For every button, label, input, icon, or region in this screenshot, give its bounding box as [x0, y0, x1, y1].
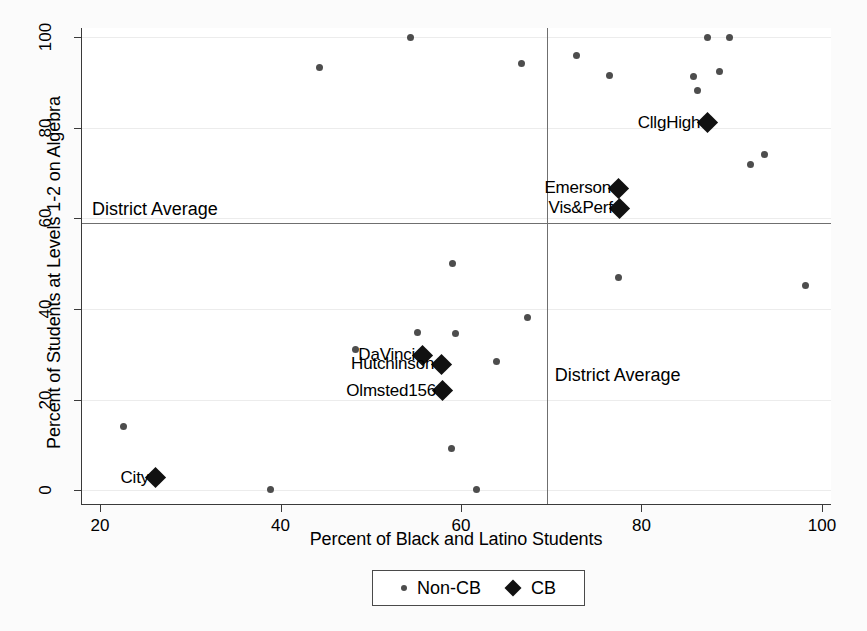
reference-line-horizontal	[82, 223, 831, 224]
non-cb-point-marker	[524, 314, 531, 321]
non-cb-point-marker	[473, 486, 480, 493]
non-cb-point-marker	[615, 274, 622, 281]
circle-marker-icon	[401, 585, 407, 591]
y-axis-tick	[74, 128, 82, 129]
non-cb-point-marker	[267, 486, 274, 493]
legend-item-cb[interactable]: CB	[505, 578, 556, 599]
non-cb-point-marker	[120, 423, 127, 430]
point-label: Vis&Perf	[549, 198, 613, 218]
point-label: Olmsted156	[346, 381, 436, 401]
legend-label-cb: CB	[531, 578, 556, 599]
y-axis-tick-label: 100	[36, 17, 56, 57]
x-axis-tick	[641, 504, 642, 512]
non-cb-point-marker	[747, 161, 754, 168]
gridline-horizontal	[82, 309, 831, 310]
y-axis-tick-label: 60	[36, 198, 56, 238]
x-axis-tick	[281, 504, 282, 512]
y-axis-tick	[74, 218, 82, 219]
non-cb-point-marker	[573, 52, 580, 59]
x-axis-tick	[461, 504, 462, 512]
point-label: CllgHigh	[638, 113, 701, 133]
y-axis-tick	[74, 37, 82, 38]
y-axis-tick-label: 0	[36, 470, 56, 510]
x-axis-tick	[822, 504, 823, 512]
non-cb-point-marker	[694, 87, 701, 94]
diamond-marker-icon	[505, 580, 522, 597]
chart-legend: Non-CB CB	[372, 570, 585, 606]
x-axis-tick-label: 60	[431, 516, 491, 536]
x-axis-tick-label: 20	[70, 516, 130, 536]
x-axis-tick-label: 40	[251, 516, 311, 536]
point-label: Hutchinson	[351, 354, 434, 374]
non-cb-point-marker	[690, 73, 697, 80]
reference-line-vertical	[547, 28, 548, 504]
legend-label-non-cb: Non-CB	[417, 578, 481, 599]
y-axis-tick-label: 40	[36, 289, 56, 329]
point-label: Emerson	[544, 178, 611, 198]
y-axis-tick-label: 80	[36, 108, 56, 148]
y-axis-tick	[74, 490, 82, 491]
non-cb-point-marker	[704, 34, 711, 41]
plot-area: District AverageDistrict AverageCityDaVi…	[81, 28, 831, 505]
non-cb-point-marker	[606, 72, 613, 79]
gridline-horizontal	[82, 400, 831, 401]
y-axis-tick	[74, 400, 82, 401]
y-axis-title: Percent of Students at Levels 1-2 on Alg…	[44, 23, 65, 523]
non-cb-point-marker	[316, 64, 323, 71]
point-label: City	[121, 468, 149, 488]
non-cb-point-marker	[518, 60, 525, 67]
gridline-horizontal	[82, 490, 831, 491]
plot-canvas: District AverageDistrict AverageCityDaVi…	[82, 28, 831, 504]
non-cb-point-marker	[716, 68, 723, 75]
non-cb-point-marker	[448, 445, 455, 452]
x-axis-tick	[100, 504, 101, 512]
non-cb-point-marker	[761, 151, 768, 158]
non-cb-point-marker	[407, 34, 414, 41]
non-cb-point-marker	[726, 34, 733, 41]
gridline-horizontal	[82, 37, 831, 38]
x-axis-tick-label: 100	[792, 516, 852, 536]
non-cb-point-marker	[449, 260, 456, 267]
reference-line-label-horizontal: District Average	[92, 199, 218, 220]
non-cb-point-marker	[493, 358, 500, 365]
non-cb-point-marker	[802, 282, 809, 289]
y-axis-tick-label: 20	[36, 380, 56, 420]
x-axis-tick-label: 80	[611, 516, 671, 536]
legend-item-non-cb[interactable]: Non-CB	[401, 578, 481, 599]
y-axis-tick	[74, 309, 82, 310]
non-cb-point-marker	[452, 330, 459, 337]
non-cb-point-marker	[414, 329, 421, 336]
scatter-plot-figure: Percent of Students at Levels 1-2 on Alg…	[0, 0, 867, 631]
gridline-horizontal	[82, 128, 831, 129]
reference-line-label-vertical: District Average	[555, 365, 681, 386]
